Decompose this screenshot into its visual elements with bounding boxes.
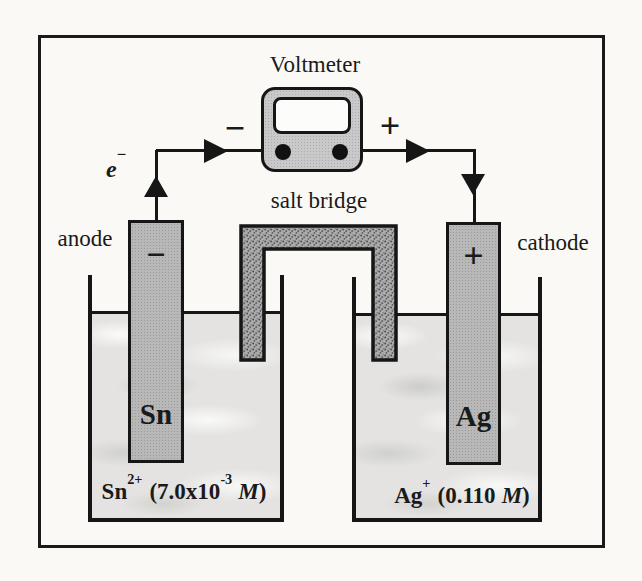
voltmeter-display — [273, 97, 351, 134]
wire-positive-sign: + — [370, 108, 410, 144]
electron-flow-down-arrow-icon — [461, 174, 485, 195]
cathode-solution-label: Ag+(0.110M) — [368, 481, 556, 509]
cathode-metal-label: Ag — [446, 400, 501, 433]
anode-solution-label: Sn2+(7.0x10-3M) — [78, 477, 290, 505]
salt-bridge-tube — [241, 226, 396, 360]
voltmeter-positive-terminal — [332, 144, 348, 160]
electron-flow-up-arrow-icon — [144, 176, 168, 197]
salt-bridge-label: salt bridge — [249, 188, 389, 213]
voltmeter-negative-terminal — [275, 144, 291, 160]
anode-electrode-sign: − — [128, 238, 184, 272]
electron-label: e− — [106, 153, 126, 183]
cathode-electrode-sign: + — [446, 238, 501, 274]
wire-negative-sign: − — [215, 110, 255, 146]
anode-label: anode — [48, 226, 122, 251]
voltmeter-label: Voltmeter — [245, 52, 385, 77]
cathode-label: cathode — [506, 230, 600, 255]
anode-metal-label: Sn — [128, 398, 184, 431]
